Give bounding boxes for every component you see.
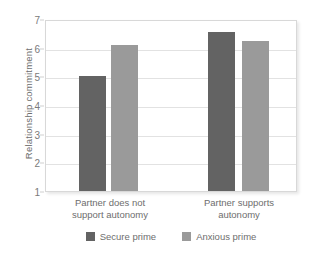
y-tick-label: 7 <box>18 15 40 26</box>
y-tick-label: 5 <box>18 72 40 83</box>
y-tick-label: 2 <box>18 158 40 169</box>
legend-swatch-icon <box>86 232 95 241</box>
x-axis-category-label-0: Partner does not support autonomy <box>50 197 170 220</box>
y-tick-mark <box>40 20 44 21</box>
bar-secure-prime-group-0 <box>79 76 106 191</box>
y-tick-label: 6 <box>18 43 40 54</box>
y-tick-mark <box>40 106 44 107</box>
legend-label: Secure prime <box>100 231 157 242</box>
category-label-line: Partner supports <box>180 197 298 209</box>
x-axis-category-label-1: Partner supports autonomy <box>180 197 298 220</box>
bar-secure-prime-group-1 <box>208 32 235 191</box>
plot-area <box>45 20 297 192</box>
legend-item-secure-prime: Secure prime <box>86 231 157 242</box>
y-tick-mark <box>40 192 44 193</box>
legend: Secure prime Anxious prime <box>45 231 297 242</box>
legend-swatch-icon <box>182 232 191 241</box>
bar-chart-figure: Relationship commitment 7 6 5 4 3 2 1 Pa… <box>0 0 319 260</box>
y-tick-mark <box>40 77 44 78</box>
y-tick-mark <box>40 163 44 164</box>
y-tick-label: 1 <box>18 187 40 198</box>
bar-anxious-prime-group-0 <box>111 45 138 191</box>
y-tick-label: 4 <box>18 101 40 112</box>
y-axis-tick-labels: 7 6 5 4 3 2 1 <box>14 20 40 192</box>
y-tick-mark <box>40 134 44 135</box>
category-label-line: Partner does not <box>50 197 170 209</box>
category-label-line: support autonomy <box>50 209 170 221</box>
legend-label: Anxious prime <box>196 231 256 242</box>
legend-item-anxious-prime: Anxious prime <box>182 231 256 242</box>
bar-anxious-prime-group-1 <box>242 41 269 192</box>
category-label-line: autonomy <box>180 209 298 221</box>
y-tick-label: 3 <box>18 129 40 140</box>
y-tick-mark <box>40 48 44 49</box>
